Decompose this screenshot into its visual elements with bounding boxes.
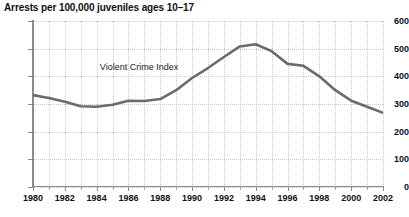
x-axis-tick-label: 1990 bbox=[175, 194, 209, 203]
y-axis-tick-label: 200 bbox=[381, 128, 409, 137]
x-axis-minor-tick bbox=[335, 187, 336, 190]
x-axis-tick-label: 2000 bbox=[334, 194, 368, 203]
chart-container: Arrests per 100,000 juveniles ages 10–17… bbox=[0, 0, 409, 217]
series-inline-label: Violent Crime Index bbox=[100, 62, 178, 72]
x-axis-minor-tick bbox=[367, 187, 368, 190]
x-axis-tick-label: 1992 bbox=[207, 194, 241, 203]
y-axis-tick-label: 0 bbox=[381, 183, 409, 192]
x-axis-tick bbox=[65, 187, 66, 191]
x-axis-tick bbox=[160, 187, 161, 191]
x-axis-tick-label: 1996 bbox=[271, 194, 305, 203]
x-axis-tick-label: 1986 bbox=[111, 194, 145, 203]
x-axis-tick bbox=[97, 187, 98, 191]
x-axis-tick bbox=[33, 187, 34, 191]
y-axis-tick-label: 300 bbox=[381, 100, 409, 109]
x-axis-tick bbox=[383, 187, 384, 191]
x-axis-tick bbox=[128, 187, 129, 191]
x-axis-minor-tick bbox=[303, 187, 304, 190]
y-axis-tick-label: 400 bbox=[381, 72, 409, 81]
x-axis-tick bbox=[224, 187, 225, 191]
y-axis-tick-label: 600 bbox=[381, 17, 409, 26]
x-axis-tick-label: 1988 bbox=[143, 194, 177, 203]
x-axis-tick-label: 2002 bbox=[366, 194, 400, 203]
x-axis-minor-tick bbox=[49, 187, 50, 190]
x-axis-minor-tick bbox=[113, 187, 114, 190]
x-axis-minor-tick bbox=[240, 187, 241, 190]
x-axis-minor-tick bbox=[81, 187, 82, 190]
x-axis-minor-tick bbox=[144, 187, 145, 190]
x-axis-tick bbox=[256, 187, 257, 191]
x-axis-tick-label: 1984 bbox=[80, 194, 114, 203]
x-axis-tick bbox=[351, 187, 352, 191]
y-axis-tick-label: 500 bbox=[381, 45, 409, 54]
x-axis-minor-tick bbox=[272, 187, 273, 190]
series-violent-crime-index bbox=[33, 21, 383, 187]
x-axis-tick-label: 1998 bbox=[302, 194, 336, 203]
chart-title: Arrests per 100,000 juveniles ages 10–17 bbox=[4, 2, 194, 13]
x-axis-tick-label: 1982 bbox=[48, 194, 82, 203]
x-axis-tick bbox=[319, 187, 320, 191]
x-axis-tick bbox=[192, 187, 193, 191]
x-axis-tick-label: 1980 bbox=[16, 194, 50, 203]
x-axis-minor-tick bbox=[208, 187, 209, 190]
x-axis-tick bbox=[288, 187, 289, 191]
x-axis-tick-label: 1994 bbox=[239, 194, 273, 203]
y-axis-tick-label: 100 bbox=[381, 155, 409, 164]
x-axis-minor-tick bbox=[176, 187, 177, 190]
series-line bbox=[33, 44, 383, 113]
